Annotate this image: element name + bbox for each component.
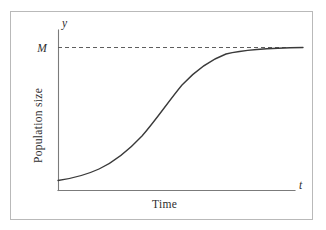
y-axis-variable-label: y bbox=[61, 17, 68, 30]
figure-root: y t M Population size Time bbox=[0, 0, 326, 230]
plot-area: y t M bbox=[0, 0, 326, 230]
x-axis-variable-label: t bbox=[299, 179, 303, 191]
x-axis-title: Time bbox=[152, 198, 177, 210]
y-axis-title: Population size bbox=[32, 88, 44, 163]
carrying-capacity-tick-label: M bbox=[36, 42, 48, 54]
logistic-growth-curve bbox=[58, 48, 303, 181]
